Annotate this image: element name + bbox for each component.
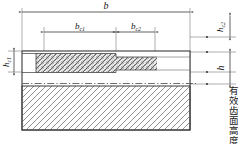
dimension-bc1: bc1 <box>44 21 116 32</box>
dimension-hc2: hc2 <box>215 16 230 37</box>
dimension-b-label: b <box>104 0 109 11</box>
contact-band-secondary <box>116 57 157 70</box>
dimension-h-label: h <box>215 66 226 71</box>
dimension-hc1-label: hc1 <box>1 57 12 67</box>
contact-band-primary <box>36 54 116 73</box>
dimension-hc2-label: hc2 <box>215 22 226 32</box>
solid-body-hatch <box>22 86 190 130</box>
dimension-hc1: hc1 <box>1 51 14 72</box>
diagram-canvas: b bc1 bc2 hc1 hc2 h <box>0 0 241 145</box>
dimension-b: b <box>22 0 190 12</box>
dimension-h: h <box>215 52 230 84</box>
dimension-bc2-label: bc2 <box>131 21 141 32</box>
dimension-tick-dots <box>206 36 208 85</box>
effective-flank-height-text: 有效齿面高度 <box>229 86 239 144</box>
tooth-flank-diagram-svg: b bc1 bc2 hc1 hc2 h <box>0 0 241 145</box>
dimension-bc2: bc2 <box>116 21 155 32</box>
effective-flank-height-annotation: 有效齿面高度 <box>206 86 238 144</box>
dimension-bc1-label: bc1 <box>75 21 85 32</box>
